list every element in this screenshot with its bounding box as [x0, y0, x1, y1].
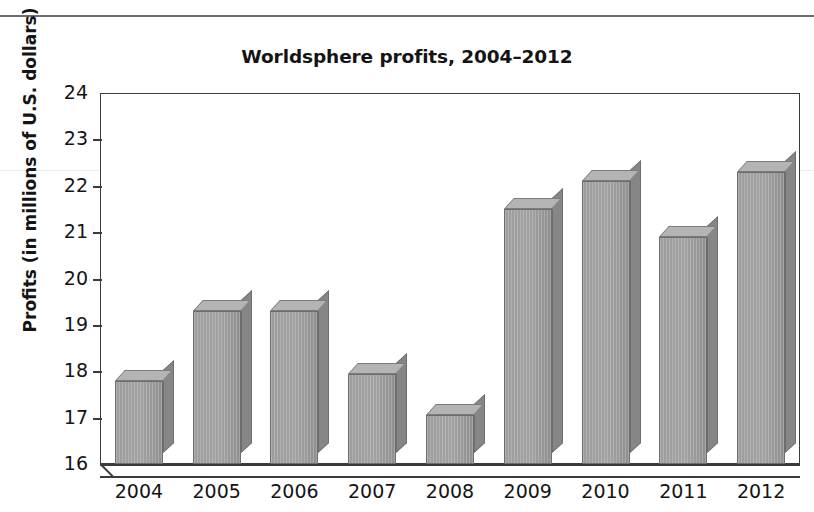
x-tick-label-2007: 2007 — [333, 480, 411, 502]
y-tick-label: 16 — [64, 452, 88, 474]
bar-side-face — [552, 188, 563, 453]
chart-title: Worldsphere profits, 2004–2012 — [0, 46, 814, 67]
bar-side-face — [318, 290, 329, 453]
bar-front-face — [504, 209, 552, 464]
bar-2010 — [582, 181, 630, 464]
bar-2011 — [659, 237, 707, 464]
bar-2004 — [115, 381, 163, 464]
floor-corner-diagonal — [100, 464, 114, 478]
floor-back-edge — [100, 464, 800, 466]
x-axis-labels: 200420052006200720082009201020112012 — [100, 480, 800, 510]
page-separator-rule — [0, 15, 814, 17]
bar-front-face — [270, 311, 318, 464]
bar-top-face — [193, 300, 251, 311]
x-tick-label-2012: 2012 — [722, 480, 800, 502]
bar-side-face — [241, 290, 252, 453]
bar-top-face — [348, 363, 406, 374]
y-tick-label: 23 — [64, 127, 88, 149]
bar-front-face — [659, 237, 707, 464]
floor-front-edge — [100, 476, 800, 478]
x-tick-label-2004: 2004 — [100, 480, 178, 502]
chart-floor-3d — [100, 464, 800, 478]
bar-top-face — [582, 170, 640, 181]
x-tick-label-2006: 2006 — [256, 480, 334, 502]
bar-side-face — [630, 160, 641, 453]
y-tick-label: 24 — [64, 81, 88, 103]
y-tick-label: 21 — [64, 220, 88, 242]
bar-top-face — [659, 226, 717, 237]
bar-series — [100, 93, 800, 464]
bar-2009 — [504, 209, 552, 464]
y-tick-label: 18 — [64, 359, 88, 381]
bar-front-face — [193, 311, 241, 464]
bar-2008 — [426, 415, 474, 464]
bar-2012 — [737, 172, 785, 464]
x-tick-label-2005: 2005 — [178, 480, 256, 502]
y-tick-label: 19 — [64, 313, 88, 335]
chart-figure: Worldsphere profits, 2004–2012 Profits (… — [0, 0, 814, 512]
y-tick-label: 20 — [64, 267, 88, 289]
bar-top-face — [737, 161, 795, 172]
y-tick-label: 22 — [64, 174, 88, 196]
bar-side-face — [785, 151, 796, 453]
bar-side-face — [707, 216, 718, 453]
bar-2005 — [193, 311, 241, 464]
bar-front-face — [737, 172, 785, 464]
x-tick-label-2010: 2010 — [567, 480, 645, 502]
x-tick-label-2009: 2009 — [489, 480, 567, 502]
bar-front-face — [348, 374, 396, 464]
bar-front-face — [115, 381, 163, 464]
y-tick-label: 17 — [64, 406, 88, 428]
bar-2006 — [270, 311, 318, 464]
bar-top-face — [115, 370, 173, 381]
x-tick-label-2008: 2008 — [411, 480, 489, 502]
bar-2007 — [348, 374, 396, 464]
bar-front-face — [582, 181, 630, 464]
x-tick-label-2011: 2011 — [644, 480, 722, 502]
bar-front-face — [426, 415, 474, 464]
y-axis-title: Profits (in millions of U.S. dollars) — [20, 5, 40, 335]
bar-top-face — [504, 198, 562, 209]
